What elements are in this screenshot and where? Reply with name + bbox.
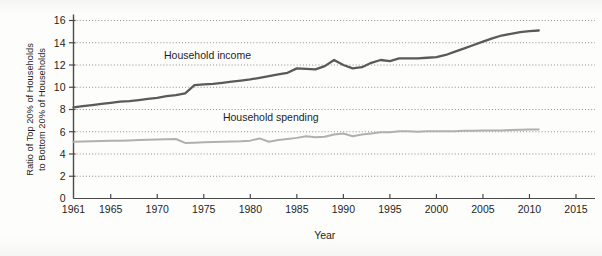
line-chart: 0246810121416196119651970197519801985199…: [0, 0, 602, 256]
y-tick-label-10: 10: [54, 81, 66, 93]
x-tick-label-1975: 1975: [192, 203, 216, 215]
chart-figure: 0246810121416196119651970197519801985199…: [0, 0, 602, 256]
x-tick-label-1990: 1990: [332, 203, 356, 215]
series-group: [74, 31, 539, 143]
x-tick-label-2010: 2010: [518, 203, 542, 215]
x-tick-label-1980: 1980: [239, 203, 263, 215]
y-tick-label-14: 14: [54, 37, 66, 49]
y-tick-label-8: 8: [60, 103, 66, 115]
y-tick-label-12: 12: [54, 59, 66, 71]
x-tick-label-1995: 1995: [378, 203, 402, 215]
y-axis-title-line2: to Bottom 20% of Households: [37, 48, 47, 171]
axes-group: 0246810121416196119651970197519801985199…: [54, 14, 595, 214]
x-tick-label-2005: 2005: [471, 203, 495, 215]
x-tick-label-1961: 1961: [62, 203, 86, 215]
x-tick-label-2015: 2015: [564, 203, 588, 215]
x-tick-label-1970: 1970: [146, 203, 170, 215]
x-tick-label-1965: 1965: [99, 203, 123, 215]
series-label-household-spending: Household spending: [223, 111, 319, 123]
y-axis-title-line1: Ratio of Top 20% of Households: [25, 43, 35, 176]
y-tick-label-6: 6: [60, 126, 66, 138]
x-tick-label-1985: 1985: [285, 203, 309, 215]
x-tick-label-2000: 2000: [425, 203, 449, 215]
series-label-household-income: Household income: [164, 49, 251, 61]
y-tick-label-4: 4: [60, 148, 66, 160]
y-tick-label-16: 16: [54, 14, 66, 26]
y-tick-label-2: 2: [60, 170, 66, 182]
x-axis-title: Year: [314, 229, 336, 241]
series-line-household-income: [74, 31, 539, 108]
